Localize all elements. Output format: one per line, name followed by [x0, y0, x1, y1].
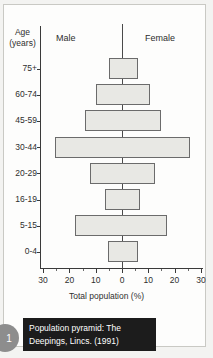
y-axis-tick-label: 5-15 — [1, 220, 37, 230]
x-axis-title: Total population (%) — [0, 291, 213, 301]
x-axis-tick-label: 30 — [33, 275, 53, 285]
y-axis-tick — [37, 200, 41, 201]
x-axis-tick-label: 20 — [165, 275, 185, 285]
caption-line1: Population pyramid: The — [29, 322, 150, 335]
x-axis-minor-tick — [161, 269, 162, 271]
pyramid-bar — [55, 137, 190, 158]
y-axis-tick-label: 30-44 — [1, 142, 37, 152]
y-axis-tick-label: 45-59 — [1, 115, 37, 125]
x-axis-minor-tick — [83, 269, 84, 271]
pyramid-bar — [85, 110, 161, 131]
x-axis-tick — [43, 269, 44, 273]
x-axis-tick-label: 10 — [86, 275, 106, 285]
y-axis-tick-label: 16-19 — [1, 194, 37, 204]
x-axis-minor-tick — [56, 269, 57, 271]
y-axis-tick-label: 60-74 — [1, 89, 37, 99]
x-axis-tick-label: 20 — [59, 275, 79, 285]
x-axis-tick — [96, 269, 97, 273]
x-axis-tick-label: 10 — [138, 275, 158, 285]
y-axis-tick-label: 75+ — [1, 63, 37, 73]
x-axis-tick-label: 30 — [191, 275, 211, 285]
x-axis-minor-tick — [109, 269, 110, 271]
pyramid-bar — [75, 215, 167, 236]
pyramid-bar — [108, 241, 138, 262]
x-axis-tick-label: 0 — [112, 275, 132, 285]
y-axis-tick-label: 20-29 — [1, 168, 37, 178]
x-axis-minor-tick — [135, 269, 136, 271]
pyramid-bar — [90, 163, 154, 184]
population-pyramid-chart: Age (years) Male Female 75+60-7445-5930-… — [0, 0, 213, 310]
y-axis-tick — [37, 69, 41, 70]
pyramid-bar — [96, 84, 150, 105]
x-axis-minor-tick — [188, 269, 189, 271]
x-axis-tick — [175, 269, 176, 273]
pyramid-bar — [109, 58, 138, 79]
x-axis-tick — [201, 269, 202, 273]
x-axis-tick — [69, 269, 70, 273]
figure-caption: Population pyramid: The Deepings, Lincs.… — [23, 318, 156, 351]
caption-line2: Deepings, Lincs. (1991) — [29, 335, 150, 348]
bars-layer — [0, 0, 213, 310]
y-axis-tick — [37, 173, 41, 174]
y-axis-tick — [37, 95, 41, 96]
y-axis-tick — [37, 226, 41, 227]
y-axis-tick — [37, 121, 41, 122]
y-axis-tick — [37, 147, 41, 148]
y-axis-tick-label: 0-4 — [1, 246, 37, 256]
y-axis-tick — [37, 252, 41, 253]
pyramid-bar — [105, 189, 141, 210]
x-axis-tick — [148, 269, 149, 273]
x-axis-tick — [122, 269, 123, 273]
